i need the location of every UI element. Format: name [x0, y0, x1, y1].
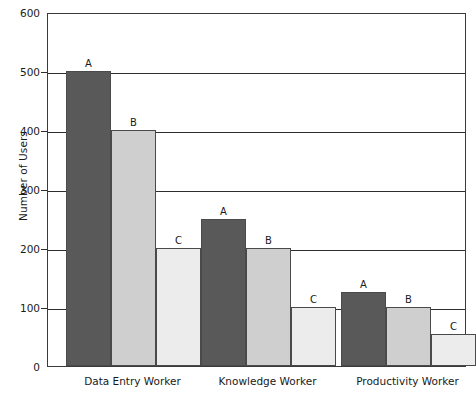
- bar-knowledge-worker-c: [291, 307, 336, 366]
- y-axis-tick-label: 300: [6, 184, 40, 196]
- bar-label: B: [265, 235, 272, 246]
- y-axis-tick-label: 600: [6, 7, 40, 19]
- bar-label: B: [130, 117, 137, 128]
- bar-productivity-worker-c: [431, 334, 476, 366]
- x-axis-category-label: Knowledge Worker: [218, 375, 316, 387]
- x-axis-category-label: Productivity Worker: [356, 375, 459, 387]
- bar-label: A: [220, 206, 227, 217]
- plot-area: ABCABCABC: [47, 13, 466, 367]
- y-axis-title: Number of Users: [17, 101, 29, 251]
- bar-label: A: [85, 58, 92, 69]
- bar-knowledge-worker-b: [246, 248, 291, 366]
- y-axis-tick-label: 200: [6, 243, 40, 255]
- y-axis-tick-label: 400: [6, 125, 40, 137]
- bar-label: A: [360, 279, 367, 290]
- bar-knowledge-worker-a: [201, 219, 246, 367]
- bar-productivity-worker-b: [386, 307, 431, 366]
- bar-label: C: [175, 235, 182, 246]
- bar-productivity-worker-a: [341, 292, 386, 366]
- y-axis-tick-label: 0: [6, 361, 40, 373]
- bar-label: C: [450, 321, 457, 332]
- bar-label: C: [310, 294, 317, 305]
- x-axis-category-label: Data Entry Worker: [84, 375, 181, 387]
- y-axis-tick-label: 500: [6, 66, 40, 78]
- y-axis-tick-label: 100: [6, 302, 40, 314]
- bar-data-entry-worker-c: [156, 248, 201, 366]
- bar-label: B: [405, 294, 412, 305]
- bar-data-entry-worker-a: [66, 71, 111, 366]
- bar-data-entry-worker-b: [111, 130, 156, 366]
